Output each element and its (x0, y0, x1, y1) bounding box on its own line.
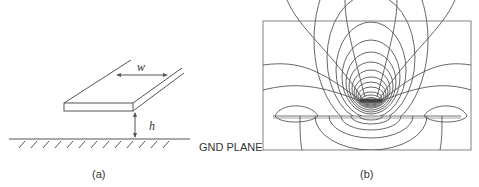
panel-a-drawing (9, 60, 190, 148)
trace-right-bottom-edge (133, 73, 184, 111)
arrowhead-right-icon (163, 73, 168, 77)
trace-left-edge (64, 60, 131, 103)
field-lines-top (263, 0, 471, 101)
ground-hatching (19, 141, 169, 148)
width-label: w (137, 60, 145, 75)
height-label: h (149, 119, 155, 134)
equipotential-lines (314, 0, 428, 130)
arrowhead-left-icon (116, 73, 121, 77)
figure-canvas (0, 0, 479, 187)
arrowhead-up-icon (133, 112, 137, 117)
ground-plane-label: GND PLANE (199, 141, 263, 153)
caption-a: (a) (92, 168, 105, 180)
caption-b: (b) (360, 168, 373, 180)
trace-front-face (64, 103, 133, 111)
arrowhead-down-icon (133, 133, 137, 138)
panel-b-drawing (263, 0, 471, 150)
trace-conductor (360, 99, 382, 102)
